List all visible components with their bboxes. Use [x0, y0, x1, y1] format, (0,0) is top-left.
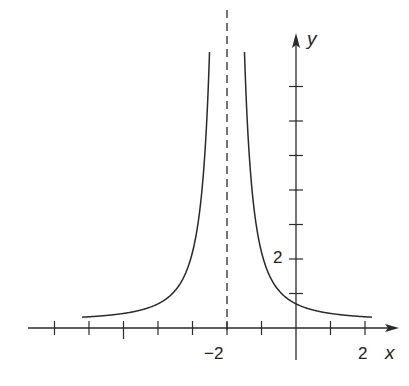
- y-tick-label-2: 2: [273, 248, 282, 268]
- x-tick-label-neg2: −2: [204, 344, 223, 364]
- chart: −2 2 2 x y: [0, 0, 409, 386]
- x-axis-label: x: [385, 342, 395, 364]
- curve-right-branch: [244, 52, 371, 317]
- y-axis-label: y: [307, 28, 317, 50]
- x-tick-label-2: 2: [358, 344, 367, 364]
- curve-left-branch: [82, 52, 209, 317]
- plot-area: [0, 0, 409, 386]
